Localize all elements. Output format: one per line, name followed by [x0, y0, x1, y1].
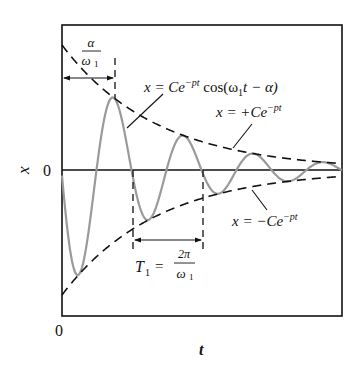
period-equals: =: [155, 258, 163, 274]
period-numerator: 2π: [178, 247, 191, 261]
phase-numerator: α: [88, 35, 96, 50]
damped-oscillation-diagram: α ω 1 T 1 = 2π ω 1 x = Ce−pt cos(ω1t − α…: [0, 0, 364, 374]
upper-envelope-leader-line: [233, 124, 252, 148]
phase-denominator: ω: [81, 53, 90, 68]
upper-envelope-curve: [62, 45, 342, 164]
x-axis-label: t: [199, 341, 204, 358]
period-denominator-sub: 1: [189, 272, 194, 282]
y-axis-label: x: [14, 166, 33, 175]
arrowhead-right-icon: [107, 76, 114, 81]
period-lhs-sub: 1: [145, 267, 150, 278]
phase-denominator-sub: 1: [94, 59, 99, 69]
arrowhead-left-icon: [63, 76, 70, 81]
lower-envelope-curve: [62, 176, 342, 295]
period-lhs: T: [135, 258, 145, 275]
arrowhead-left-icon: [134, 238, 141, 243]
period-denominator: ω: [176, 266, 185, 281]
curve-equation-label: x = Ce−pt cos(ω1t − α): [143, 77, 278, 98]
x-origin-label: 0: [55, 322, 63, 339]
damped-cosine-curve: [62, 97, 342, 275]
lower-envelope-label: x = −Ce−pt: [231, 211, 298, 229]
upper-envelope-label: x = +Ce−pt: [215, 102, 282, 120]
arrowhead-right-icon: [195, 238, 202, 243]
y-zero-label: 0: [43, 162, 51, 179]
lower-envelope-leader-line: [252, 190, 267, 210]
